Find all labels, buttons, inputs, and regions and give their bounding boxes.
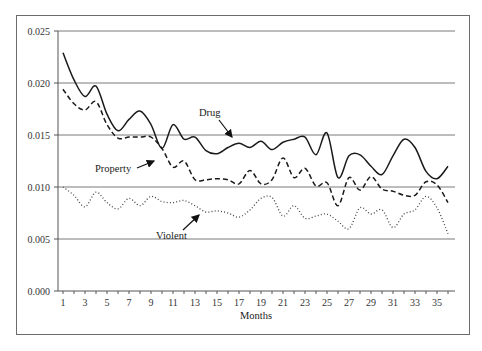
series-line-property [63, 89, 448, 205]
x-tick-label: 5 [105, 297, 110, 308]
annotations: DrugPropertyViolent [95, 107, 232, 241]
annotation-violent: Violent [156, 230, 187, 241]
x-tick-label: 29 [366, 297, 376, 308]
line-chart: 0.0000.0050.0100.0150.0200.025 135791113… [0, 0, 482, 351]
arrow-icon [219, 120, 232, 137]
arrow-icon [183, 215, 199, 230]
x-tick-label: 35 [432, 297, 442, 308]
x-tick-label: 19 [256, 297, 266, 308]
annotation-property: Property [95, 163, 132, 174]
y-tick-label: 0.020 [28, 78, 51, 89]
x-tick-label: 7 [127, 297, 132, 308]
x-tick-label: 25 [322, 297, 332, 308]
y-axis: 0.0000.0050.0100.0150.0200.025 [28, 26, 59, 297]
x-tick-label: 1 [61, 297, 66, 308]
series-lines [63, 53, 448, 234]
x-tick-label: 21 [278, 297, 288, 308]
x-tick-label: 13 [190, 297, 200, 308]
x-tick-label: 33 [410, 297, 420, 308]
y-tick-label: 0.025 [28, 26, 51, 37]
x-tick-label: 17 [234, 297, 244, 308]
x-tick-label: 27 [344, 297, 354, 308]
annotation-drug: Drug [199, 107, 221, 118]
arrow-icon [137, 161, 154, 168]
x-tick-label: 15 [212, 297, 222, 308]
y-tick-label: 0.010 [28, 182, 51, 193]
x-tick-label: 3 [83, 297, 88, 308]
x-tick-label: 11 [168, 297, 178, 308]
y-tick-label: 0.015 [28, 130, 51, 141]
y-tick-label: 0.000 [28, 286, 51, 297]
series-line-violent [63, 187, 448, 234]
y-tick-label: 0.005 [28, 234, 51, 245]
gridlines [58, 31, 455, 239]
x-tick-label: 9 [149, 297, 154, 308]
x-tick-label: 23 [300, 297, 310, 308]
x-axis-title: Months [240, 310, 272, 321]
series-line-drug [63, 53, 448, 179]
x-tick-label: 31 [388, 297, 398, 308]
x-axis: 1357911131517192123252729313335 [58, 291, 455, 308]
